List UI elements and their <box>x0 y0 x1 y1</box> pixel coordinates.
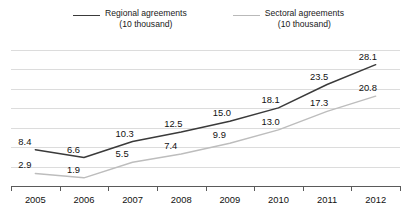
data-label: 10.3 <box>116 128 134 139</box>
x-axis-label: 2009 <box>219 194 240 205</box>
data-label: 23.5 <box>310 71 328 82</box>
x-axis-label: 2008 <box>171 194 192 205</box>
x-axis-label: 2010 <box>268 194 289 205</box>
line-chart: Regional agreements (10 thousand) Sector… <box>0 0 417 217</box>
x-axis-label: 2011 <box>317 194 337 205</box>
data-label: 20.8 <box>359 82 377 93</box>
plot-svg: 8.46.610.312.515.018.123.528.12.91.95.57… <box>0 0 417 217</box>
data-label: 13.0 <box>261 116 279 127</box>
data-label: 8.4 <box>18 136 31 147</box>
data-label: 5.5 <box>116 148 129 159</box>
data-label: 28.1 <box>359 51 377 62</box>
data-label: 12.5 <box>164 118 182 129</box>
x-axis: 20052006200720082009201020112012 <box>11 186 401 205</box>
data-label: 7.4 <box>164 140 177 151</box>
data-label: 18.1 <box>261 94 279 105</box>
data-label: 1.9 <box>67 164 80 175</box>
data-label: 9.9 <box>213 129 226 140</box>
data-label: 2.9 <box>18 159 31 170</box>
x-axis-label: 2006 <box>74 194 95 205</box>
plot-area: 8.46.610.312.515.018.123.528.12.91.95.57… <box>0 0 417 217</box>
data-label: 15.0 <box>213 107 231 118</box>
data-label: 17.3 <box>310 97 328 108</box>
series-layer <box>35 65 375 178</box>
x-axis-label: 2005 <box>25 194 46 205</box>
data-label: 6.6 <box>67 144 80 155</box>
x-axis-label: 2007 <box>122 194 143 205</box>
x-axis-label: 2012 <box>365 194 386 205</box>
